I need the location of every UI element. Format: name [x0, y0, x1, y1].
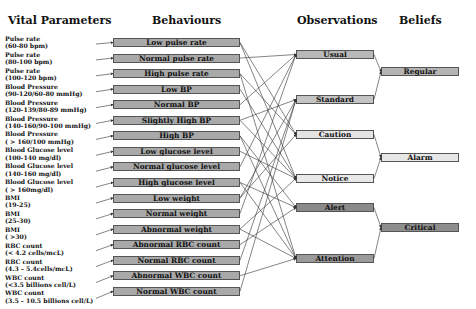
- edge-line: [240, 74, 296, 135]
- edge-line: [240, 100, 296, 261]
- edge-line: [240, 55, 296, 214]
- edge-line: [240, 100, 296, 199]
- edge-line: [96, 105, 113, 108]
- edge-line: [374, 72, 381, 100]
- edge-line: [96, 182, 113, 187]
- edge-line: [374, 55, 381, 72]
- edge-line: [96, 136, 113, 140]
- edge-line: [96, 167, 113, 171]
- edge-line: [96, 74, 113, 76]
- edge-line: [240, 182, 296, 258]
- edge-line: [96, 260, 113, 266]
- edge-line: [240, 208, 296, 245]
- edge-line: [96, 120, 113, 123]
- edge-line: [374, 208, 381, 228]
- edge-line: [374, 158, 381, 179]
- edge-line: [96, 58, 113, 60]
- edge-line: [96, 229, 113, 235]
- edge-line: [96, 151, 113, 155]
- edge-line: [96, 214, 113, 219]
- edge-line: [374, 228, 381, 259]
- edge-line: [96, 43, 113, 45]
- edge-line: [240, 55, 296, 105]
- edge-line: [96, 276, 113, 283]
- edge-line: [240, 74, 296, 259]
- edge-line: [240, 229, 296, 258]
- edge-line: [240, 43, 296, 179]
- edge-line: [96, 291, 113, 298]
- edges-layer: [0, 0, 476, 309]
- edge-line: [96, 245, 113, 251]
- edge-line: [240, 100, 296, 292]
- edge-line: [240, 259, 296, 276]
- edge-line: [96, 89, 113, 92]
- edge-line: [96, 198, 113, 203]
- edge-line: [374, 135, 381, 158]
